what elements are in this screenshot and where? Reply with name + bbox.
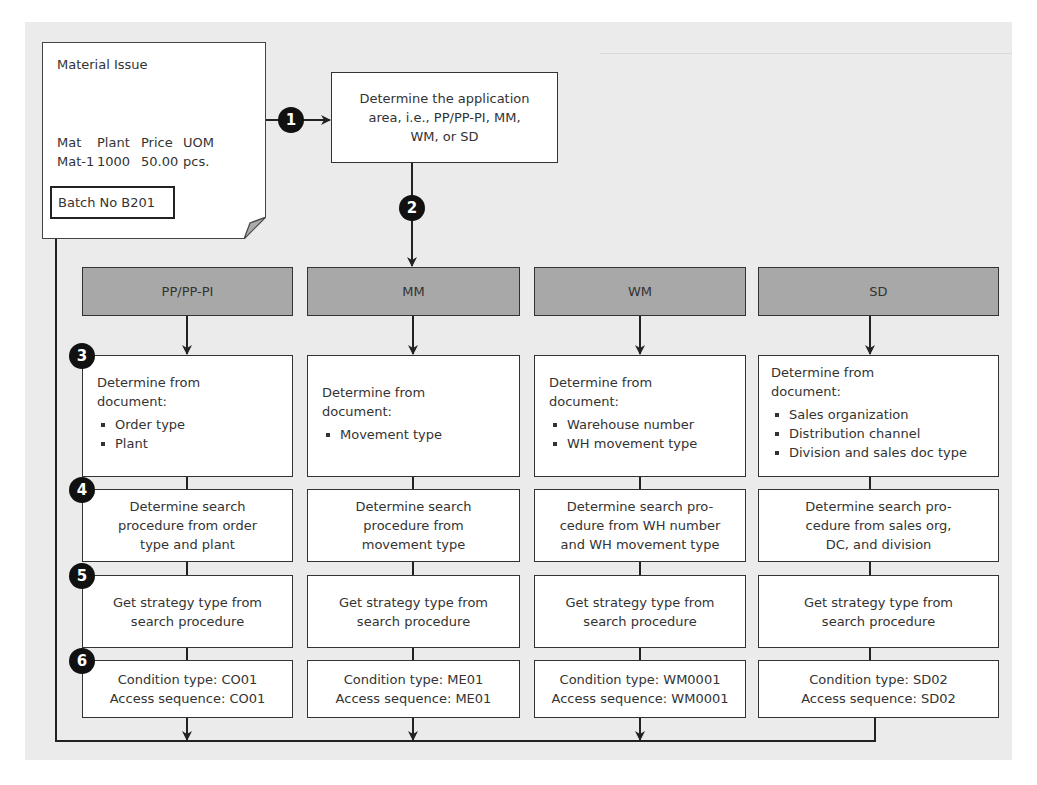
box-title: Determine from [549,373,731,392]
access-sequence-label: Access sequence: WM0001 [552,689,729,708]
step-1-marker: 1 [278,107,304,133]
search-procedure-mm: Determine search procedure from movement… [307,489,520,562]
strategy-type-mm: Get strategy type from search procedure [307,575,520,648]
box-line: Determine search pro- [567,497,713,516]
plant-value: 1000 [97,152,141,171]
header-sd: SD [758,267,999,316]
step-4-marker: 4 [69,477,95,503]
page-corner-fold-icon [244,217,266,239]
box-line: cedure from sales org, [806,516,952,535]
box-line: search procedure [131,612,244,631]
box-line: Determine search [129,497,245,516]
box-line: Determine search [355,497,471,516]
application-area-line: Determine the application [359,89,529,108]
box-line: Get strategy type from [804,593,953,612]
document-fields-table: Mat Plant Price UOM Mat-1 1000 50.00 pcs… [57,133,223,171]
criteria-item: Division and sales doc type [771,443,984,462]
criteria-item: Warehouse number [549,415,731,434]
access-sequence-label: Access sequence: CO01 [110,689,266,708]
strategy-type-pp: Get strategy type from search procedure [82,575,293,648]
step-2-marker: 2 [399,195,425,221]
box-line: and WH movement type [561,535,720,554]
uom-value: pcs. [183,152,223,171]
strategy-type-wm: Get strategy type from search procedure [534,575,746,648]
box-line: procedure from [363,516,463,535]
access-sequence-label: Access sequence: ME01 [336,689,492,708]
application-area-line: WM, or SD [410,127,478,146]
step-3-marker: 3 [69,343,95,369]
box-line: movement type [362,535,465,554]
search-procedure-pp: Determine search procedure from order ty… [82,489,293,562]
box-title: document: [97,392,278,411]
document-title: Material Issue [57,55,148,74]
box-line: procedure from order [118,516,257,535]
criteria-list: Sales organization Distribution channel … [771,405,984,462]
box-line: search procedure [583,612,696,631]
box-title: document: [549,392,731,411]
batch-number-field: Batch No B201 [50,186,175,219]
condition-type-pp: Condition type: CO01 Access sequence: CO… [82,660,293,718]
box-line: Get strategy type from [113,593,262,612]
criteria-list: Warehouse number WH movement type [549,415,731,453]
box-line: DC, and division [826,535,932,554]
step-5-marker: 5 [69,563,95,589]
strategy-type-sd: Get strategy type from search procedure [758,575,999,648]
application-area-line: area, i.e., PP/PP-PI, MM, [368,108,520,127]
criteria-item: Sales organization [771,405,984,424]
criteria-item: Distribution channel [771,424,984,443]
box-line: cedure from WH number [560,516,721,535]
header-wm: WM [534,267,746,316]
determine-from-document-mm: Determine from document: Movement type [307,355,520,477]
box-line: search procedure [822,612,935,631]
box-title: Determine from [97,373,278,392]
column-header: Price [141,133,183,152]
box-line: Get strategy type from [565,593,714,612]
price-value: 50.00 [141,152,183,171]
condition-type-label: Condition type: ME01 [344,670,484,689]
determine-from-document-wm: Determine from document: Warehouse numbe… [534,355,746,477]
box-line: Determine search pro- [805,497,951,516]
criteria-item: Movement type [322,425,505,444]
step-6-marker: 6 [69,648,95,674]
header-mm: MM [307,267,520,316]
box-title: document: [322,402,505,421]
determine-from-document-sd: Determine from document: Sales organizat… [758,355,999,477]
box-line: search procedure [357,612,470,631]
condition-type-sd: Condition type: SD02 Access sequence: SD… [758,660,999,718]
document-header-row: Mat Plant Price UOM [57,133,223,152]
criteria-list: Order type Plant [97,415,278,453]
criteria-item: Order type [97,415,278,434]
condition-type-label: Condition type: WM0001 [560,670,721,689]
box-title: document: [771,382,984,401]
condition-type-wm: Condition type: WM0001 Access sequence: … [534,660,746,718]
box-line: Get strategy type from [339,593,488,612]
search-procedure-sd: Determine search pro- cedure from sales … [758,489,999,562]
criteria-item: Plant [97,434,278,453]
material-value: Mat-1 [57,152,97,171]
search-procedure-wm: Determine search pro- cedure from WH num… [534,489,746,562]
criteria-item: WH movement type [549,434,731,453]
document-data-row: Mat-1 1000 50.00 pcs. [57,152,223,171]
determine-from-document-pp: Determine from document: Order type Plan… [82,355,293,477]
box-line: type and plant [140,535,235,554]
condition-type-label: Condition type: SD02 [809,670,948,689]
condition-type-label: Condition type: CO01 [118,670,258,689]
column-header: Mat [57,133,97,152]
criteria-list: Movement type [322,425,505,444]
application-area-box: Determine the application area, i.e., PP… [331,72,558,163]
column-header: Plant [97,133,141,152]
access-sequence-label: Access sequence: SD02 [801,689,956,708]
condition-type-mm: Condition type: ME01 Access sequence: ME… [307,660,520,718]
box-title: Determine from [322,383,505,402]
box-title: Determine from [771,363,984,382]
header-pp-pp-pi: PP/PP-PI [82,267,293,316]
column-header: UOM [183,133,223,152]
